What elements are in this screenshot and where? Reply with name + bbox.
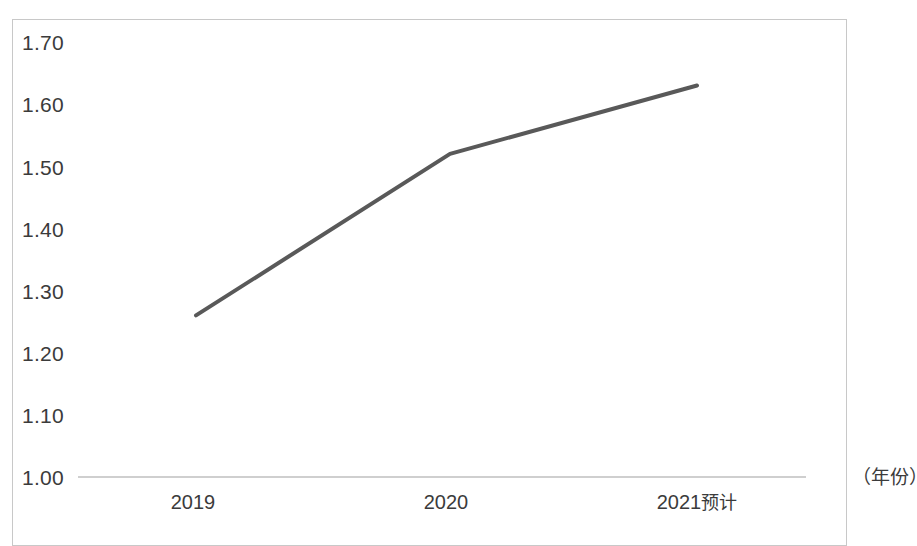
x-tick-year: 2021: [657, 491, 702, 513]
y-tick-label: 1.20: [22, 343, 84, 364]
y-tick-label: 1.50: [22, 157, 84, 178]
y-tick-label: 1.00: [22, 467, 84, 488]
data-series-line: [196, 86, 697, 316]
y-tick-label: 1.10: [22, 405, 84, 426]
x-axis-unit-label: （年份）: [852, 468, 917, 487]
y-tick-label: 1.40: [22, 219, 84, 240]
x-tick-label-2020: 2020: [424, 492, 469, 512]
y-tick-label: 1.70: [22, 32, 84, 53]
x-tick-year: 2019: [171, 491, 216, 513]
x-tick-label-2021-forecast: 2021预计: [657, 492, 738, 512]
x-tick-label-2019: 2019: [171, 492, 216, 512]
x-tick-suffix: 预计: [701, 492, 737, 513]
x-tick-year: 2020: [424, 491, 469, 513]
y-tick-label: 1.60: [22, 94, 84, 115]
y-tick-label: 1.30: [22, 281, 84, 302]
